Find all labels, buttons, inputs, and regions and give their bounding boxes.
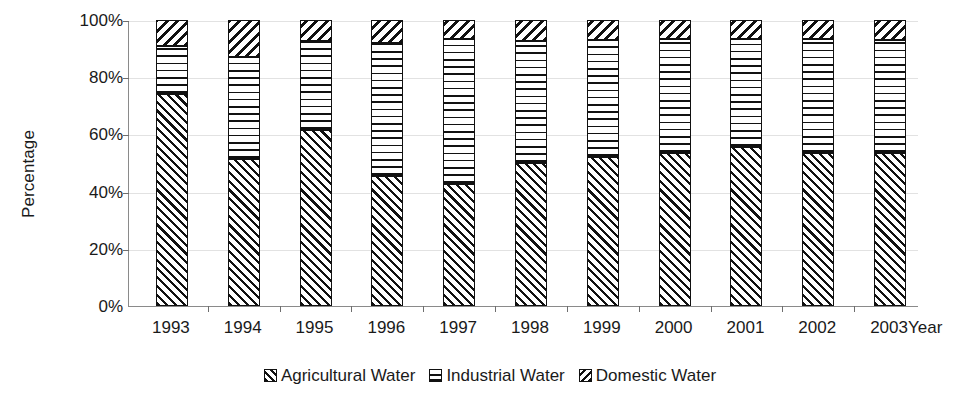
legend-label: Industrial Water: [446, 366, 564, 385]
bar-segment-industrial-water-1999: [587, 40, 619, 157]
bar-segment-industrial-water-2002: [802, 39, 834, 153]
bar-segment-domestic-water-1998: [515, 20, 547, 41]
bar-1993: [156, 20, 188, 306]
bar-1998: [515, 20, 547, 306]
bar-segment-industrial-water-1995: [300, 41, 332, 130]
bar-segment-agricultural-water-2001: [730, 147, 762, 306]
bar-segment-agricultural-water-1999: [587, 157, 619, 306]
bar-segment-agricultural-water-1994: [228, 159, 260, 306]
legend-swatch-domestic-water-icon: [579, 369, 592, 382]
x-tick-mark: [351, 306, 352, 312]
bar-segment-domestic-water-2001: [730, 20, 762, 39]
bar-1996: [371, 20, 403, 306]
bar-segment-agricultural-water-1996: [371, 176, 403, 306]
y-tick-label: 40%: [45, 184, 123, 201]
x-tick-mark: [495, 306, 496, 312]
x-tick-mark: [854, 306, 855, 312]
x-tick-mark: [782, 306, 783, 312]
x-tick-mark: [280, 306, 281, 312]
bar-segment-industrial-water-1997: [443, 39, 475, 185]
bar-segment-industrial-water-1996: [371, 43, 403, 176]
bar-1997: [443, 20, 475, 306]
x-tick-mark: [567, 306, 568, 312]
y-tick-mark: [123, 135, 129, 136]
bar-segment-agricultural-water-2003: [874, 153, 906, 306]
bar-segment-domestic-water-1996: [371, 20, 403, 43]
y-tick-label: 60%: [45, 126, 123, 143]
y-axis-tick-labels: 0%20%40%60%80%100%: [45, 0, 123, 408]
y-tick-label: 20%: [45, 241, 123, 258]
bar-segment-agricultural-water-1997: [443, 184, 475, 306]
legend-swatch-industrial-water-icon: [429, 369, 442, 382]
chart-legend: Agricultural WaterIndustrial WaterDomest…: [0, 366, 980, 385]
bar-segment-agricultural-water-1995: [300, 130, 332, 306]
bar-segment-domestic-water-2003: [874, 20, 906, 40]
bar-segment-industrial-water-1994: [228, 57, 260, 159]
bar-segment-agricultural-water-1998: [515, 163, 547, 306]
y-tick-mark: [123, 78, 129, 79]
bar-segment-industrial-water-1993: [156, 46, 188, 95]
y-tick-mark: [123, 21, 129, 22]
y-tick-label: 80%: [45, 69, 123, 86]
x-tick-mark: [711, 306, 712, 312]
stacked-bar-chart: Percentage 0%20%40%60%80%100% 1993199419…: [0, 0, 980, 408]
bar-2002: [802, 20, 834, 306]
bar-segment-industrial-water-2000: [659, 39, 691, 153]
y-tick-mark: [123, 250, 129, 251]
bar-segment-agricultural-water-1993: [156, 94, 188, 306]
y-tick-mark: [123, 193, 129, 194]
legend-label: Agricultural Water: [281, 366, 415, 385]
x-tick-mark: [208, 306, 209, 312]
bar-2003: [874, 20, 906, 306]
bar-segment-domestic-water-1993: [156, 20, 188, 46]
bar-segment-agricultural-water-2000: [659, 153, 691, 306]
bar-segment-domestic-water-2002: [802, 20, 834, 39]
bar-2001: [730, 20, 762, 306]
bar-segment-domestic-water-1999: [587, 20, 619, 40]
x-axis-tick-labels: 1993199419951996199719981999200020012002…: [0, 318, 980, 344]
bar-1994: [228, 20, 260, 306]
bar-segment-domestic-water-1994: [228, 20, 260, 57]
bar-2000: [659, 20, 691, 306]
legend-label: Domestic Water: [596, 366, 716, 385]
bar-segment-agricultural-water-2002: [802, 153, 834, 306]
legend-item-agricultural-water: Agricultural Water: [264, 366, 415, 385]
legend-swatch-agricultural-water-icon: [264, 369, 277, 382]
bar-segment-industrial-water-2003: [874, 40, 906, 153]
bar-1995: [300, 20, 332, 306]
bar-1999: [587, 20, 619, 306]
y-tick-label: 100%: [45, 12, 123, 29]
x-tick-mark: [423, 306, 424, 312]
legend-item-domestic-water: Domestic Water: [579, 366, 716, 385]
bar-segment-domestic-water-1995: [300, 20, 332, 41]
x-axis-title: Year: [908, 318, 942, 338]
bar-segment-domestic-water-1997: [443, 20, 475, 39]
y-tick-label: 0%: [45, 298, 123, 315]
y-axis-title: Percentage: [19, 74, 39, 274]
legend-item-industrial-water: Industrial Water: [429, 366, 564, 385]
bar-segment-domestic-water-2000: [659, 20, 691, 39]
plot-area: [128, 21, 918, 307]
bar-segment-industrial-water-2001: [730, 39, 762, 148]
bar-segment-industrial-water-1998: [515, 41, 547, 163]
x-tick-mark: [639, 306, 640, 312]
